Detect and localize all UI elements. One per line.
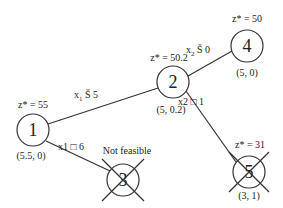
- node-4: 4 z* = 50 (5, 0): [231, 13, 263, 79]
- edge-2-4-label: x2 Š 0: [186, 44, 210, 58]
- node-1: 1 z* = 55 (5.5, 0): [16, 99, 49, 162]
- edge-1-3-label: x1 □ 6: [58, 141, 84, 152]
- edge-2-5-label: x2 □ 1: [178, 96, 204, 107]
- not-feasible-label: Not feasible: [103, 145, 152, 156]
- node-5: 5 z* = 31 (3, 1): [229, 139, 269, 202]
- node-5-z: z* = 31: [235, 139, 265, 150]
- node-4-solution: (5, 0): [236, 67, 258, 79]
- node-2-label: 2: [169, 72, 178, 92]
- node-2-z: z* = 50.2: [150, 52, 188, 63]
- node-3: 3 Not feasible: [102, 145, 152, 201]
- node-1-label: 1: [29, 120, 38, 140]
- branch-and-bound-tree: 1 z* = 55 (5.5, 0) 2 z* = 50.2 (5, 0.2) …: [0, 0, 283, 208]
- edge-1-2-label: x1 Š 5: [74, 89, 98, 103]
- edge-1-2: [48, 88, 158, 124]
- node-1-solution: (5.5, 0): [16, 150, 45, 162]
- node-4-label: 4: [243, 36, 252, 56]
- node-4-z: z* = 50: [232, 13, 262, 24]
- node-1-z: z* = 55: [18, 99, 48, 110]
- node-5-solution: (3, 1): [238, 190, 260, 202]
